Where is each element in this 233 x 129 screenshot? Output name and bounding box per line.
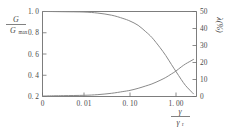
x-axis-title: γ γ r	[171, 107, 190, 127]
curve-shear-modulus	[43, 11, 194, 93]
y-right-tick-label: 30	[200, 41, 208, 50]
y-left-axis-title: G G max	[6, 15, 28, 35]
y-left-tick-label: 1. 0	[28, 7, 39, 16]
y-right-tick-label: 40	[200, 24, 208, 33]
y-left-tick-marks	[43, 12, 47, 97]
y-right-axis-title: λ(%)	[215, 16, 224, 33]
y-right-tick-labels: 50 40 30 20 10 0	[200, 7, 208, 101]
chart-canvas: 1. 0 0. 8 0. 6 0. 4 0. 2 50 40 30 20 10 …	[0, 0, 233, 129]
y-right-tick-label: 20	[200, 58, 208, 67]
x-axis-title-denominator: γ	[176, 118, 180, 127]
x-tick-label: 0	[41, 99, 45, 108]
y-right-tick-marks	[193, 12, 197, 97]
y-left-tick-labels: 1. 0 0. 8 0. 6 0. 4 0. 2	[28, 7, 39, 101]
y-right-tick-label: 50	[200, 7, 208, 16]
plot-frame	[43, 12, 197, 97]
y-left-axis-title-denominator: G	[10, 26, 16, 35]
x-tick-label: 0. 10	[123, 99, 138, 108]
x-axis-title-denominator-sub: r	[182, 121, 184, 127]
y-left-axis-title-numerator: G	[13, 15, 19, 24]
y-right-axis-title-text: λ(%)	[215, 16, 224, 33]
x-axis-title-numerator: γ	[178, 107, 182, 116]
y-left-tick-label: 0. 2	[28, 92, 39, 101]
y-left-tick-label: 0. 8	[28, 28, 39, 37]
x-tick-labels: 0 0. 01 0. 10 1. 00	[41, 99, 184, 108]
curve-damping-ratio	[43, 59, 194, 96]
y-left-tick-label: 0. 4	[28, 71, 39, 80]
data-curves	[43, 11, 194, 96]
x-tick-label: 0. 01	[77, 99, 92, 108]
y-left-tick-label: 0. 6	[28, 50, 39, 59]
y-right-tick-label: 0	[200, 92, 204, 101]
y-left-axis-title-denominator-sub: max	[19, 29, 28, 35]
chart-figure: 1. 0 0. 8 0. 6 0. 4 0. 2 50 40 30 20 10 …	[0, 0, 233, 129]
y-right-tick-label: 10	[200, 75, 208, 84]
